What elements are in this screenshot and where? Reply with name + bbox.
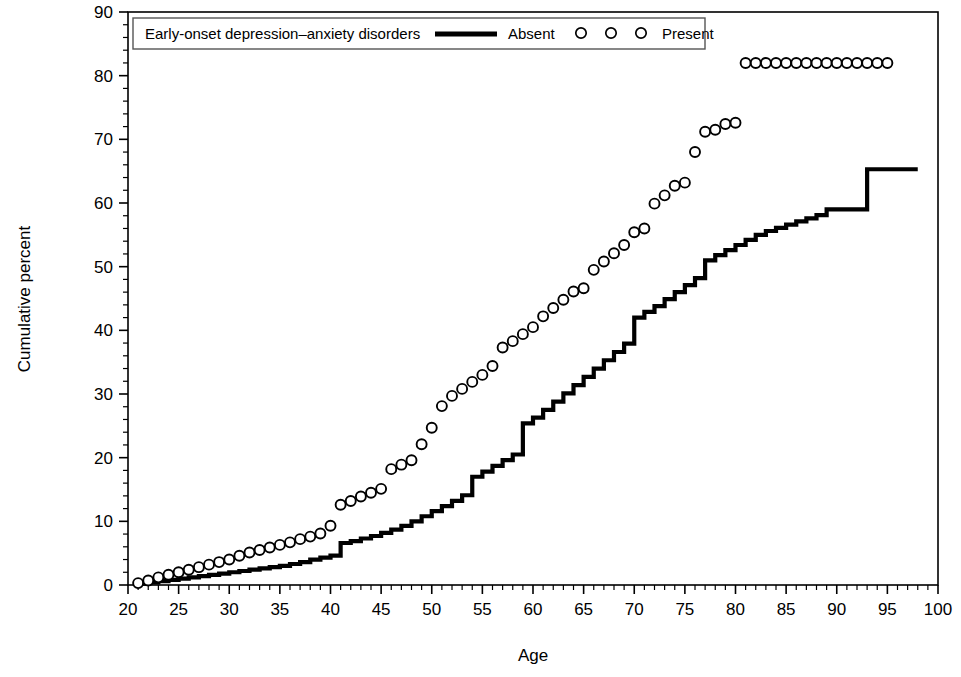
present-marker bbox=[680, 178, 690, 188]
present-marker bbox=[720, 119, 730, 129]
y-tick-label: 50 bbox=[94, 258, 113, 277]
present-marker bbox=[599, 257, 609, 267]
present-marker bbox=[852, 58, 862, 68]
y-axis-title: Cumulative percent bbox=[15, 225, 34, 372]
present-marker bbox=[791, 58, 801, 68]
x-tick-label: 75 bbox=[675, 600, 694, 619]
present-marker bbox=[204, 560, 214, 570]
x-tick-label: 45 bbox=[372, 600, 391, 619]
chart-background bbox=[0, 0, 961, 677]
present-marker bbox=[862, 58, 872, 68]
x-tick-label: 50 bbox=[422, 600, 441, 619]
present-marker bbox=[842, 58, 852, 68]
present-marker bbox=[761, 58, 771, 68]
present-marker bbox=[589, 265, 599, 275]
present-marker bbox=[872, 58, 882, 68]
legend-present-label: Present bbox=[662, 25, 715, 42]
present-marker bbox=[234, 551, 244, 561]
present-marker bbox=[619, 240, 629, 250]
present-marker bbox=[832, 58, 842, 68]
present-marker bbox=[710, 125, 720, 135]
present-marker bbox=[396, 460, 406, 470]
present-marker bbox=[467, 377, 477, 387]
x-tick-label: 90 bbox=[827, 600, 846, 619]
present-marker bbox=[427, 423, 437, 433]
y-tick-label: 0 bbox=[104, 576, 113, 595]
present-marker bbox=[508, 336, 518, 346]
present-marker bbox=[518, 329, 528, 339]
present-marker bbox=[407, 455, 417, 465]
legend-title-label: Early-onset depression–anxiety disorders bbox=[145, 25, 420, 42]
y-tick-label: 80 bbox=[94, 67, 113, 86]
present-marker bbox=[781, 58, 791, 68]
present-marker bbox=[265, 542, 275, 552]
y-tick-label: 20 bbox=[94, 449, 113, 468]
x-axis-title: Age bbox=[518, 646, 548, 665]
present-marker bbox=[812, 58, 822, 68]
present-marker bbox=[315, 528, 325, 538]
present-marker bbox=[356, 492, 366, 502]
present-marker bbox=[174, 567, 184, 577]
present-marker bbox=[700, 127, 710, 137]
present-marker bbox=[731, 118, 741, 128]
present-marker bbox=[184, 565, 194, 575]
x-tick-label: 80 bbox=[726, 600, 745, 619]
present-marker bbox=[579, 283, 589, 293]
present-marker bbox=[366, 488, 376, 498]
present-marker bbox=[538, 311, 548, 321]
chart-canvas: 20253035404550556065707580859095100 0102… bbox=[0, 0, 961, 677]
present-marker bbox=[639, 223, 649, 233]
present-marker bbox=[326, 521, 336, 531]
y-tick-label: 10 bbox=[94, 512, 113, 531]
present-marker bbox=[751, 58, 761, 68]
x-tick-label: 85 bbox=[777, 600, 796, 619]
present-marker bbox=[143, 576, 153, 586]
present-marker bbox=[214, 557, 224, 567]
present-marker bbox=[771, 58, 781, 68]
present-marker bbox=[690, 147, 700, 157]
present-marker bbox=[569, 286, 579, 296]
cumulative-incidence-chart: 20253035404550556065707580859095100 0102… bbox=[0, 0, 961, 677]
x-tick-label: 25 bbox=[169, 600, 188, 619]
x-tick-label: 40 bbox=[321, 600, 340, 619]
y-tick-label: 90 bbox=[94, 3, 113, 22]
x-tick-label: 100 bbox=[924, 600, 952, 619]
present-marker bbox=[224, 555, 234, 565]
x-tick-label: 35 bbox=[270, 600, 289, 619]
x-tick-label: 20 bbox=[119, 600, 138, 619]
present-marker bbox=[275, 540, 285, 550]
present-marker bbox=[437, 401, 447, 411]
y-tick-label: 40 bbox=[94, 321, 113, 340]
present-marker bbox=[650, 199, 660, 209]
x-tick-label: 95 bbox=[878, 600, 897, 619]
present-marker bbox=[305, 532, 315, 542]
present-marker bbox=[882, 58, 892, 68]
present-marker bbox=[670, 181, 680, 191]
present-marker bbox=[133, 578, 143, 588]
x-tick-label: 60 bbox=[524, 600, 543, 619]
present-marker bbox=[498, 343, 508, 353]
present-marker bbox=[477, 370, 487, 380]
present-marker bbox=[447, 391, 457, 401]
present-marker bbox=[255, 545, 265, 555]
present-marker bbox=[386, 464, 396, 474]
present-marker bbox=[548, 303, 558, 313]
present-marker bbox=[801, 58, 811, 68]
present-marker bbox=[822, 58, 832, 68]
present-marker bbox=[558, 295, 568, 305]
x-tick-label: 55 bbox=[473, 600, 492, 619]
x-tick-label: 70 bbox=[625, 600, 644, 619]
y-tick-label: 70 bbox=[94, 130, 113, 149]
present-marker bbox=[741, 58, 751, 68]
x-tick-label: 30 bbox=[220, 600, 239, 619]
present-marker bbox=[285, 537, 295, 547]
x-tick-label: 65 bbox=[574, 600, 593, 619]
present-marker bbox=[629, 227, 639, 237]
present-marker bbox=[376, 484, 386, 494]
present-marker bbox=[488, 361, 498, 371]
present-marker bbox=[153, 572, 163, 582]
present-marker bbox=[295, 534, 305, 544]
present-marker bbox=[660, 190, 670, 200]
present-marker bbox=[457, 384, 467, 394]
present-marker bbox=[164, 570, 174, 580]
